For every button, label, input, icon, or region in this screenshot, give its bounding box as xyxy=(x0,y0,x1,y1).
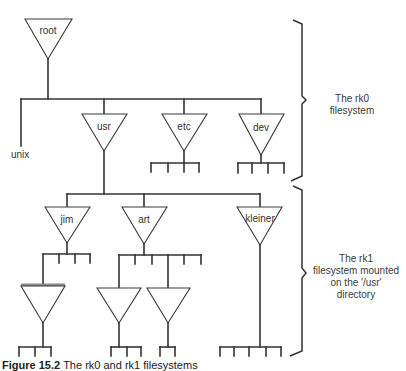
dev-triangle xyxy=(239,114,284,155)
figure-caption-label: Figure 15.2 xyxy=(2,359,60,371)
jim-label: jim xyxy=(60,214,74,225)
node-usr: usr xyxy=(82,114,127,151)
jim-subdirectory xyxy=(19,285,65,356)
rk0-annotation-line1: The rk0 xyxy=(310,93,394,105)
jim-children-comb xyxy=(43,243,90,285)
unix-label: unix xyxy=(11,149,29,160)
jim-triangle xyxy=(45,207,90,243)
rk1-annotation-line3: on the '/usr' xyxy=(308,277,404,289)
etc-triangle xyxy=(162,114,207,151)
dev-label: dev xyxy=(253,122,269,133)
node-jim: jim xyxy=(45,207,90,243)
dev-children-comb xyxy=(238,155,284,173)
art-subdir1-triangle xyxy=(97,288,141,323)
figure-caption-text: The rk0 and rk1 filesystems xyxy=(63,359,198,371)
rk1-annotation: The rk1 filesystem mounted on the '/usr'… xyxy=(308,253,404,301)
root-label: root xyxy=(39,25,56,36)
rk1-annotation-line4: directory xyxy=(308,289,404,301)
etc-label: etc xyxy=(177,121,190,132)
etc-children-comb xyxy=(151,151,199,172)
rk0-annotation-line2: filesystem xyxy=(310,105,394,117)
rk1-annotation-line1: The rk1 xyxy=(308,253,404,265)
usr-triangle xyxy=(82,114,127,151)
usr-label: usr xyxy=(97,121,112,132)
node-kleiner: kleiner xyxy=(237,207,282,245)
kleiner-children-comb xyxy=(220,245,281,356)
art-subdirectory-2 xyxy=(147,288,190,356)
art-children-comb xyxy=(119,244,201,288)
art-subdir2-triangle xyxy=(147,288,190,323)
art-triangle xyxy=(122,207,167,244)
rk1-annotation-line2: filesystem mounted xyxy=(308,265,404,277)
node-art: art xyxy=(122,207,167,244)
node-root: root xyxy=(25,19,72,59)
art-label: art xyxy=(138,214,150,225)
rk0-brace xyxy=(291,20,306,181)
node-dev: dev xyxy=(239,114,284,155)
art-subdirectory-1 xyxy=(97,288,141,356)
figure-caption: Figure 15.2 The rk0 and rk1 filesystems xyxy=(2,359,198,371)
node-etc: etc xyxy=(162,114,207,151)
rk1-brace xyxy=(290,186,306,356)
rk0-annotation: The rk0 filesystem xyxy=(310,93,394,117)
kleiner-label: kleiner xyxy=(245,213,275,224)
jim-subdir-triangle xyxy=(21,286,65,323)
